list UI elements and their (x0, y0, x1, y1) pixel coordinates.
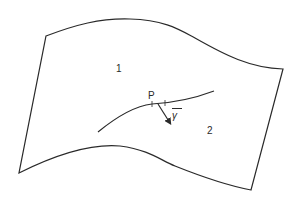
diagram-canvas: 1 P γ 2 (0, 0, 298, 201)
point-p-label: P (148, 91, 155, 101)
region-2-label: 2 (207, 126, 213, 136)
gamma-vector-arrow (158, 104, 170, 123)
gamma-vector-label: γ (172, 111, 177, 121)
region-1-label: 1 (116, 64, 122, 74)
curve-through-p (98, 91, 214, 132)
vector-overbar-icon (172, 108, 182, 109)
